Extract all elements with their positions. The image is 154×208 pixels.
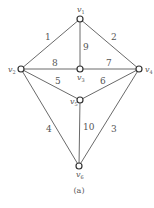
edge-v2-v6 xyxy=(21,69,79,166)
weight-label-7: 7 xyxy=(106,58,112,68)
weight-label-1: 1 xyxy=(45,32,51,42)
edge-v1-v2 xyxy=(21,19,80,69)
weight-label-9: 9 xyxy=(83,42,89,52)
node-v1 xyxy=(77,16,83,22)
edge-v5-v6 xyxy=(79,100,80,166)
node-v4 xyxy=(136,66,142,72)
edge-v4-v6 xyxy=(79,69,139,166)
weight-label-2: 2 xyxy=(111,32,117,42)
figure-caption: (a) xyxy=(73,186,84,195)
node-v5 xyxy=(77,97,83,103)
weighted-graph: 1 2 3 4 5 6 7 8 9 10 v1 v2 v3 v4 v5 v6 (… xyxy=(0,0,154,208)
edge-v4-v5 xyxy=(80,69,139,100)
weight-label-6: 6 xyxy=(100,76,106,86)
node-label-v4: v4 xyxy=(145,65,153,75)
weight-label-8: 8 xyxy=(52,58,58,68)
node-v6 xyxy=(76,163,82,169)
weight-label-3: 3 xyxy=(111,124,117,134)
node-label-v1: v1 xyxy=(77,5,85,15)
weight-label-10: 10 xyxy=(83,122,95,132)
node-label-v2: v2 xyxy=(8,65,16,75)
node-label-v6: v6 xyxy=(76,170,84,180)
node-v2 xyxy=(18,66,24,72)
weight-label-4: 4 xyxy=(46,124,52,134)
weight-label-5: 5 xyxy=(55,76,61,86)
node-v3 xyxy=(77,66,83,72)
node-label-v3: v3 xyxy=(77,73,85,83)
